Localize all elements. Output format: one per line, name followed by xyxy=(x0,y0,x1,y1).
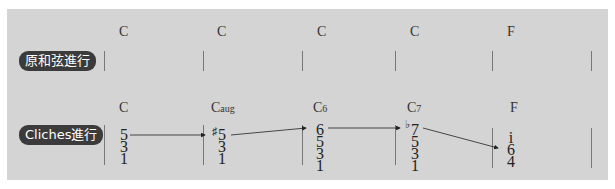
voice-leading-arrows xyxy=(0,0,615,189)
